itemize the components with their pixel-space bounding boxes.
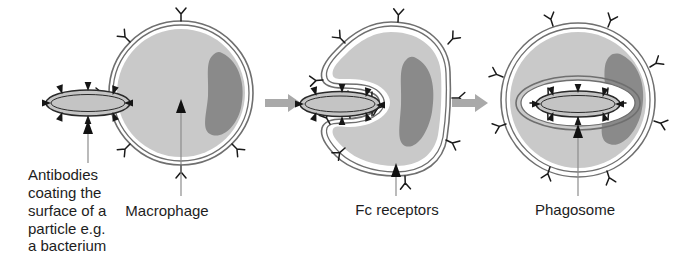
bacterium-3 — [536, 91, 620, 117]
antibodies-label-line-4: particle e.g. — [28, 220, 106, 237]
fc-receptors-label: Fc receptors — [355, 201, 438, 218]
antibodies-label-line-3: surface of a — [28, 202, 107, 219]
bacterium-2 — [300, 92, 380, 117]
bacterium-1 — [46, 90, 130, 116]
antibodies-label: Antibodies coating the surface of a part… — [28, 166, 107, 254]
antibodies-leader — [83, 120, 93, 163]
labels-layer: Antibodies coating the surface of a part… — [28, 166, 615, 254]
stage-3-phagosome — [489, 12, 668, 196]
phagocytosis-diagram: Phagocytosis of an antibody-coated parti… — [0, 0, 696, 254]
stage-arrow-2 — [452, 94, 488, 112]
phagocytosis-figure: Phagocytosis of an antibody-coated parti… — [0, 0, 696, 254]
stage-2-engulfment — [295, 9, 465, 196]
macrophage-label: Macrophage — [125, 202, 208, 219]
antibodies-label-line-5: a bacterium — [28, 237, 106, 254]
antibodies-label-line-2: coating the — [28, 184, 101, 201]
antibodies-label-line-1: Antibodies — [28, 166, 98, 183]
phagosome-label: Phagosome — [535, 201, 615, 218]
